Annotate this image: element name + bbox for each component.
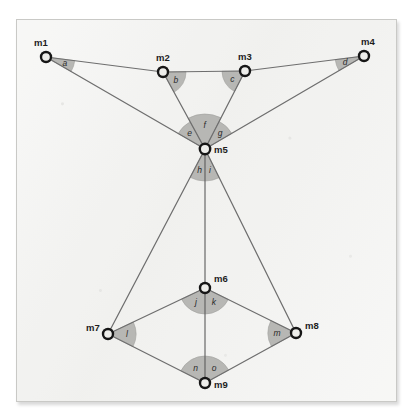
scanned-page-background: abcdefghijklmno m1m2m3m4m5m6m7m8m9 <box>0 0 411 420</box>
node-label-m8: m8 <box>305 320 319 331</box>
angle-label-m: m <box>273 328 280 338</box>
edge-m7-m9 <box>108 334 205 383</box>
edge-m8-m9 <box>205 333 296 383</box>
angle-label-b: b <box>174 75 179 85</box>
graph-diagram: abcdefghijklmno m1m2m3m4m5m6m7m8m9 <box>0 0 411 420</box>
angle-label-a: a <box>63 58 68 68</box>
node-m8[interactable] <box>290 327 302 339</box>
node-m6[interactable] <box>199 282 211 294</box>
node-core-m6 <box>201 284 209 292</box>
node-core-m2 <box>159 68 167 76</box>
angle-label-k: k <box>212 297 217 307</box>
node-core-m4 <box>360 52 368 60</box>
node-m9[interactable] <box>199 377 211 389</box>
node-label-m1: m1 <box>34 37 48 48</box>
node-label-m3: m3 <box>238 51 252 62</box>
edge-m1-m5 <box>46 57 205 149</box>
node-core-m7 <box>104 330 112 338</box>
angle-label-e: e <box>187 128 192 138</box>
angle-label-d: d <box>343 57 348 67</box>
angle-label-h: h <box>197 165 202 175</box>
angle-label-g: g <box>218 128 223 138</box>
node-core-m9 <box>201 379 209 387</box>
edge-m6-m8 <box>205 288 296 333</box>
angle-label-o: o <box>212 363 217 373</box>
edge-layer <box>46 56 364 383</box>
node-core-m8 <box>292 329 300 337</box>
angle-label-n: n <box>193 363 198 373</box>
node-m3[interactable] <box>239 65 251 77</box>
node-label-m4: m4 <box>361 36 375 47</box>
node-label-m7: m7 <box>86 322 100 333</box>
node-m2[interactable] <box>157 66 169 78</box>
node-m4[interactable] <box>358 50 370 62</box>
node-m7[interactable] <box>102 328 114 340</box>
node-m1[interactable] <box>40 51 52 63</box>
node-label-m9: m9 <box>214 379 228 390</box>
node-label-m6: m6 <box>214 273 228 284</box>
edge-m6-m7 <box>108 288 205 334</box>
node-core-m3 <box>241 67 249 75</box>
node-m5[interactable] <box>199 143 212 156</box>
node-core-m5 <box>201 145 209 153</box>
node-core-m1 <box>42 53 50 61</box>
node-label-m2: m2 <box>156 52 170 63</box>
node-label-m5: m5 <box>214 144 228 155</box>
